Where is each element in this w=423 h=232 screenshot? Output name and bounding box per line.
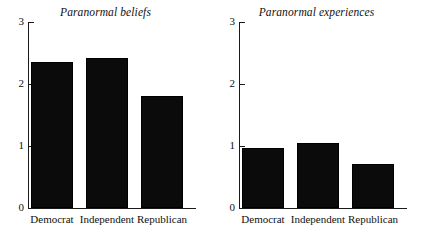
paranormal-bar-chart-figure: Paranormal beliefs 3 2 1 0 Democrat Inde… — [0, 0, 423, 232]
y-axis-line-beliefs — [28, 22, 29, 209]
bar-experiences-republican — [352, 164, 394, 208]
y-tick-3-beliefs — [28, 22, 34, 23]
bar-experiences-independent — [297, 143, 339, 208]
y-tick-2-experiences — [239, 84, 245, 85]
y-tick-0-experiences — [239, 208, 245, 209]
y-axis-line-experiences — [239, 22, 240, 209]
plot-area-beliefs: 3 2 1 0 Democrat Independent Republican — [0, 0, 211, 232]
bar-beliefs-democrat — [31, 62, 73, 208]
y-tick-3-experiences — [239, 22, 245, 23]
x-label-beliefs-independent: Independent — [75, 212, 139, 226]
x-label-beliefs-republican: Republican — [132, 212, 192, 226]
y-tick-label-1-beliefs: 1 — [6, 140, 24, 151]
y-tick-label-3-experiences: 3 — [217, 16, 235, 27]
x-label-experiences-democrat: Democrat — [233, 212, 293, 226]
bar-beliefs-republican — [141, 96, 183, 208]
x-label-experiences-independent: Independent — [286, 212, 350, 226]
plot-area-experiences: 3 2 1 0 Democrat Independent Republican — [211, 0, 422, 232]
y-tick-label-1-experiences: 1 — [217, 140, 235, 151]
x-label-experiences-republican: Republican — [343, 212, 403, 226]
x-axis-line-beliefs — [28, 208, 196, 209]
x-label-beliefs-democrat: Democrat — [22, 212, 82, 226]
y-tick-0-beliefs — [28, 208, 34, 209]
bar-beliefs-independent — [86, 58, 128, 208]
x-axis-line-experiences — [239, 208, 407, 209]
panel-paranormal-beliefs: Paranormal beliefs 3 2 1 0 Democrat Inde… — [0, 0, 211, 232]
y-tick-label-2-experiences: 2 — [217, 78, 235, 89]
bar-experiences-democrat — [242, 148, 284, 208]
y-tick-label-3-beliefs: 3 — [6, 16, 24, 27]
panel-paranormal-experiences: Paranormal experiences 3 2 1 0 Democrat … — [211, 0, 422, 232]
y-tick-label-2-beliefs: 2 — [6, 78, 24, 89]
y-tick-1-experiences — [239, 146, 245, 147]
